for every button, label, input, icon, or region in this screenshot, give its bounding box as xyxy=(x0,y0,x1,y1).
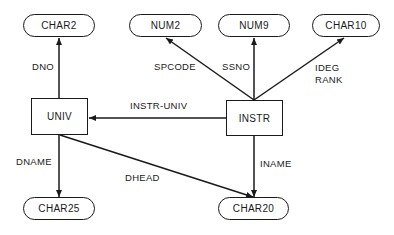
label-ssno: SSNO xyxy=(222,61,250,73)
entity-instr-label: INSTR xyxy=(239,113,271,124)
entity-univ-label: UNIV xyxy=(47,111,72,122)
edge-dhead xyxy=(60,135,253,197)
label-dno: DNO xyxy=(32,61,54,73)
node-char25-label: CHAR25 xyxy=(38,203,79,214)
node-num2-label: NUM2 xyxy=(151,20,181,31)
label-iname: INAME xyxy=(260,158,292,170)
label-spcode: SPCODE xyxy=(154,61,196,73)
label-instr-univ: INSTR-UNIV xyxy=(130,100,187,112)
label-dname: DNAME xyxy=(16,156,52,168)
node-char20: CHAR20 xyxy=(218,197,289,220)
node-char10-label: CHAR10 xyxy=(325,20,366,31)
node-char25: CHAR25 xyxy=(23,197,95,220)
node-char10: CHAR10 xyxy=(312,14,380,37)
entity-univ: UNIV xyxy=(31,98,88,135)
entity-instr: INSTR xyxy=(226,100,283,136)
node-char20-label: CHAR20 xyxy=(233,203,274,214)
label-ideg: IDEG xyxy=(315,62,339,74)
node-char2-label: CHAR2 xyxy=(41,20,76,31)
node-char2: CHAR2 xyxy=(23,14,95,37)
node-num9: NUM9 xyxy=(218,14,290,37)
node-num2: NUM2 xyxy=(129,14,202,37)
label-dhead: DHEAD xyxy=(125,172,160,184)
node-num9-label: NUM9 xyxy=(239,20,269,31)
label-rank: RANK xyxy=(315,74,343,86)
